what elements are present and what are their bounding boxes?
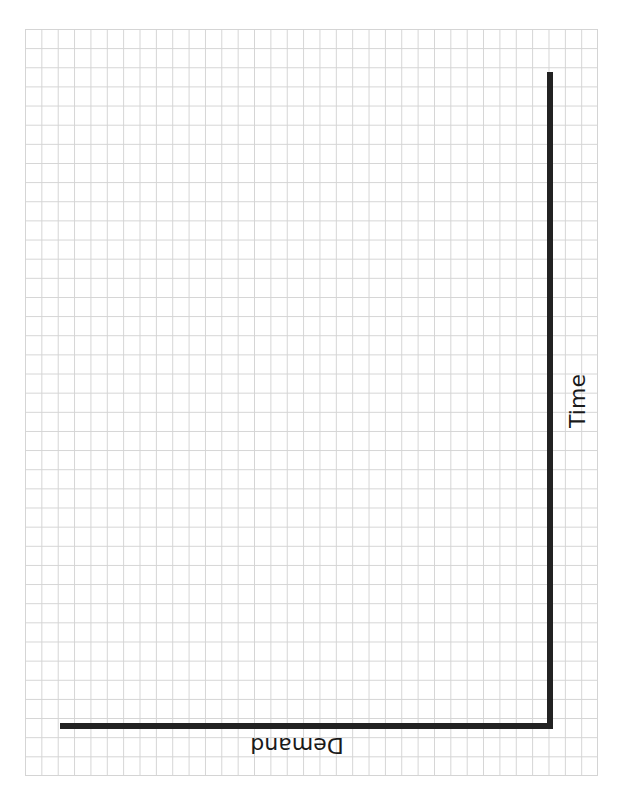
horizontal-axis-label: Demand bbox=[242, 734, 352, 756]
horizontal-axis-line bbox=[60, 723, 553, 729]
vertical-axis-label: Time bbox=[567, 371, 589, 431]
grid-paper-background bbox=[25, 29, 598, 776]
vertical-axis-line bbox=[547, 72, 553, 729]
